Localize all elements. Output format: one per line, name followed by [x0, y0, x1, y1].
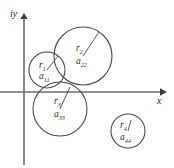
disc-3-center-subscript: 33: [58, 114, 65, 121]
disc-2-radius-subscript: 2: [80, 48, 83, 55]
x-axis-label: x: [156, 95, 162, 106]
disc-1-group: r1 a11: [29, 52, 65, 88]
gershgorin-disc-figure: iy x r1 a11 r2 a22: [0, 0, 174, 168]
disc-4-center-label: a44: [120, 132, 131, 144]
disc-2-radius-label: r2: [76, 43, 83, 55]
disc-4-radius-line: [128, 120, 131, 131]
y-axis-arrowhead: [20, 13, 27, 19]
disc-3-radius-line: [60, 87, 70, 109]
disc-2-radius-line: [83, 32, 99, 56]
disc-3-center-label: a33: [54, 109, 65, 121]
disc-3-radius-label: r3: [54, 96, 61, 108]
figure-canvas: iy x r1 a11 r2 a22: [0, 0, 174, 168]
disc-2-group: r2 a22: [54, 27, 112, 85]
disc-4-center-subscript: 44: [125, 137, 131, 144]
disc-2-center-subscript: 22: [81, 61, 87, 68]
disc-2-center-label: a22: [76, 56, 87, 68]
disc-3-radius-subscript: 3: [57, 101, 61, 108]
axes-group: [0, 13, 167, 165]
disc-1-center-label: a11: [39, 71, 49, 83]
disc-3-group: r3 a33: [33, 82, 87, 136]
disc-4-radius-label: r4: [120, 120, 127, 132]
disc-4-radius-subscript: 4: [124, 125, 127, 132]
disc-1-center-subscript: 11: [44, 76, 50, 83]
disc-4-group: r4 a44: [111, 114, 145, 148]
disc-1-radius-label: r1: [39, 60, 46, 72]
y-axis-label: iy: [10, 8, 18, 19]
